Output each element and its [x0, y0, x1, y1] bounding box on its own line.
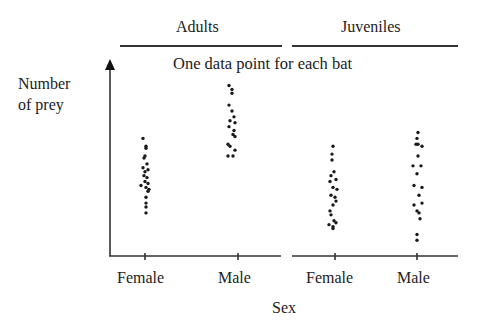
data-point [142, 156, 145, 159]
data-point [232, 115, 235, 118]
data-point [328, 209, 331, 212]
plot-area [0, 0, 483, 326]
y-axis [105, 59, 115, 256]
data-point [142, 174, 145, 177]
series-juveniles-female [327, 145, 338, 231]
data-point [334, 178, 337, 181]
data-point [329, 213, 332, 216]
data-point [328, 180, 331, 183]
data-point [412, 203, 415, 206]
data-point [233, 148, 236, 151]
y-axis-arrow-icon [105, 59, 115, 70]
data-point [144, 147, 147, 150]
data-point [415, 137, 418, 140]
data-point [332, 170, 335, 173]
data-point [146, 182, 149, 185]
data-point [327, 223, 330, 226]
data-point [227, 125, 230, 128]
series-adults-female [139, 137, 150, 215]
data-point [233, 121, 236, 124]
data-point [416, 154, 419, 157]
data-point [419, 164, 422, 167]
data-point [141, 166, 144, 169]
data-point [227, 84, 230, 87]
data-point [144, 196, 147, 199]
data-point [230, 92, 233, 95]
data-point [144, 205, 147, 208]
data-point [330, 158, 333, 161]
data-point [417, 211, 420, 214]
data-point [228, 119, 231, 122]
data-point [418, 217, 421, 220]
data-point [416, 143, 419, 146]
data-point [331, 227, 334, 230]
data-point [420, 201, 423, 204]
data-point [334, 199, 337, 202]
data-point [145, 162, 148, 165]
data-point [227, 103, 230, 106]
data-point [335, 188, 338, 191]
data-point [420, 186, 423, 189]
data-point [333, 196, 336, 199]
data-point [415, 233, 418, 236]
data-point [334, 221, 337, 224]
data-point [143, 180, 146, 183]
data-point [331, 203, 334, 206]
data-point [146, 190, 149, 193]
data-point [412, 184, 415, 187]
data-point [139, 184, 142, 187]
data-point [230, 109, 233, 112]
data-point [146, 168, 149, 171]
data-point [329, 194, 332, 197]
data-point [420, 145, 423, 148]
data-point [145, 176, 148, 179]
data-point [226, 154, 229, 157]
data-point [144, 186, 147, 189]
data-points [139, 84, 423, 242]
series-adults-male [226, 84, 236, 158]
data-point [411, 164, 414, 167]
data-point [228, 145, 231, 148]
data-point [416, 131, 419, 134]
data-point [233, 135, 236, 138]
data-point [330, 152, 333, 155]
series-juveniles-male [411, 131, 423, 242]
data-point [141, 137, 144, 140]
data-point [415, 172, 418, 175]
x-axis [109, 253, 458, 260]
data-point [144, 211, 147, 214]
data-point [143, 170, 146, 173]
data-point [415, 239, 418, 242]
data-point [331, 145, 334, 148]
data-point [231, 154, 234, 157]
data-point [144, 201, 147, 204]
data-point [232, 129, 235, 132]
data-point [331, 186, 334, 189]
data-point [329, 174, 332, 177]
data-point [417, 194, 420, 197]
data-point [230, 88, 233, 91]
